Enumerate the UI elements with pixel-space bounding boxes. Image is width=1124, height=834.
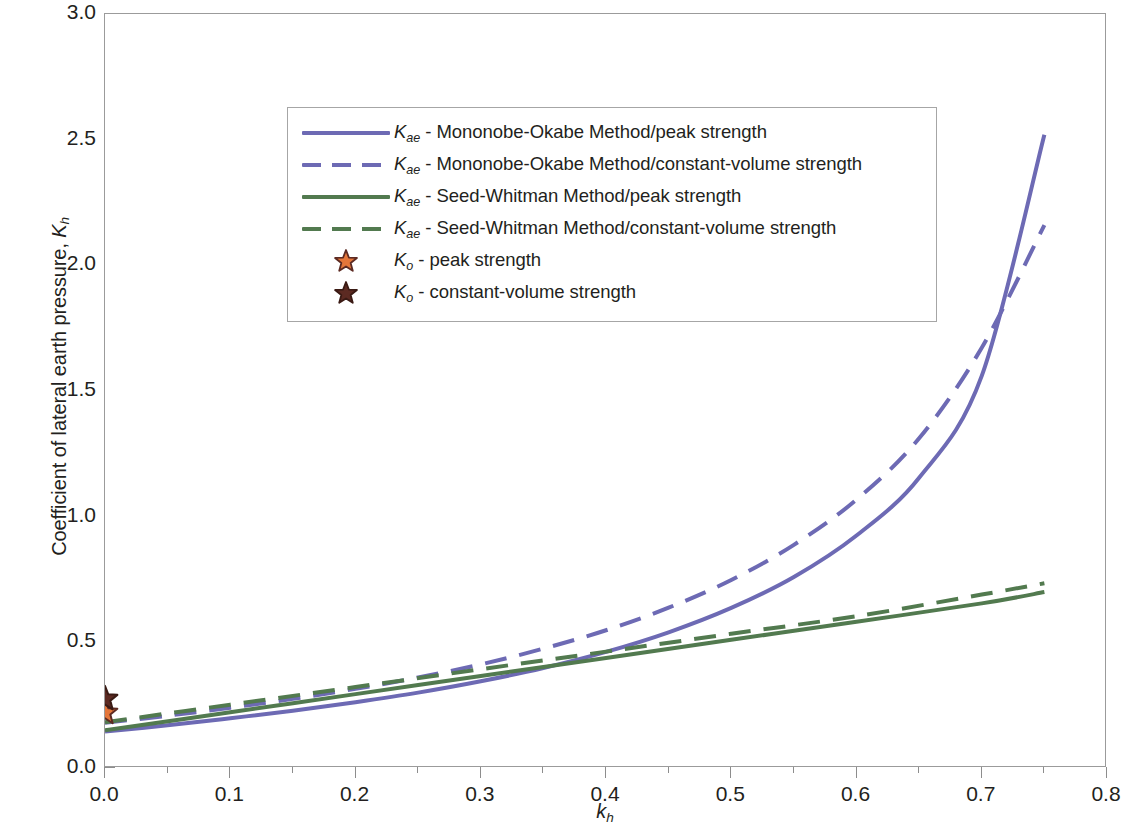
data-point-star — [105, 686, 117, 710]
legend-symbol: K — [394, 153, 406, 174]
y-tick-label: 0.0 — [67, 755, 96, 776]
legend-symbol-subscript: ae — [406, 227, 420, 241]
y-axis-label-subscript: h — [57, 217, 72, 224]
x-tick-label: 0.8 — [1066, 783, 1124, 804]
x-tick-label: 0.7 — [941, 783, 1021, 804]
x-tick-major — [730, 767, 731, 778]
legend-symbol: K — [394, 121, 406, 142]
legend-swatch-line-dashed-blue — [298, 155, 394, 175]
legend-item[interactable]: Kae - Seed-Whitman Method/constant-volum… — [288, 213, 936, 245]
legend-description: - Mononobe-Okabe Method/peak strength — [420, 121, 767, 142]
y-tick-label: 3.0 — [67, 1, 96, 22]
series-line — [105, 592, 1044, 730]
legend-item[interactable]: Kae - Seed-Whitman Method/peak strength — [288, 181, 936, 213]
legend-line-swatch — [302, 227, 390, 231]
y-tick-label: 1.0 — [67, 504, 96, 525]
legend-item-label: Kae - Mononobe-Okabe Method/constant-vol… — [394, 153, 862, 177]
y-axis-label-symbol: K — [48, 224, 70, 237]
x-tick-label: 0.6 — [816, 783, 896, 804]
x-tick-major — [1106, 767, 1107, 778]
x-tick-label: 0.3 — [440, 783, 520, 804]
legend-line-swatch — [302, 131, 390, 135]
legend-swatch-star-maroon — [298, 283, 394, 303]
x-tick-major — [104, 767, 105, 778]
x-tick-major — [229, 767, 230, 778]
x-tick-label: 0.1 — [189, 783, 269, 804]
legend-star-icon — [333, 280, 359, 306]
legend-item-label: Kae - Seed-Whitman Method/peak strength — [394, 185, 741, 209]
legend-item[interactable]: Kae - Mononobe-Okabe Method/peak strengt… — [288, 117, 936, 149]
legend-description: - Mononobe-Okabe Method/constant-volume … — [420, 153, 862, 174]
legend-description: - Seed-Whitman Method/peak strength — [420, 185, 741, 206]
plot-area: Kae - Mononobe-Okabe Method/peak strengt… — [104, 13, 1106, 767]
legend-symbol-subscript: ae — [406, 131, 420, 145]
y-tick-label: 2.0 — [67, 252, 96, 273]
x-tick-label: 0.0 — [64, 783, 144, 804]
x-tick-major — [355, 767, 356, 778]
legend-item-label: Kae - Seed-Whitman Method/constant-volum… — [394, 217, 836, 241]
legend-symbol-subscript: ae — [406, 195, 420, 209]
series-line — [105, 583, 1044, 722]
legend-swatch-line-solid-green — [298, 187, 394, 207]
legend-line-swatch — [302, 163, 390, 167]
legend-description: - Seed-Whitman Method/constant-volume st… — [420, 217, 836, 238]
legend-symbol: K — [394, 281, 406, 302]
y-tick-label: 0.5 — [67, 629, 96, 650]
x-tick-major — [480, 767, 481, 778]
legend-symbol-subscript: ae — [406, 163, 420, 177]
x-tick-major — [605, 767, 606, 778]
legend-swatch-line-solid-blue — [298, 123, 394, 143]
legend-description: - peak strength — [413, 249, 541, 270]
y-tick-label: 2.5 — [67, 127, 96, 148]
y-tick-label: 1.5 — [67, 378, 96, 399]
x-tick-label: 0.2 — [315, 783, 395, 804]
x-axis-label-subscript: h — [606, 810, 614, 825]
legend-item-label: Ko - peak strength — [394, 249, 541, 273]
legend-line-swatch — [302, 195, 390, 199]
legend-symbol: K — [394, 217, 406, 238]
x-tick-major — [856, 767, 857, 778]
chart-figure: Coefficient of lateral earth pressure, K… — [0, 0, 1124, 834]
legend-item[interactable]: Ko - constant-volume strength — [288, 277, 936, 309]
legend-swatch-star-orange — [298, 251, 394, 271]
chart-legend: Kae - Mononobe-Okabe Method/peak strengt… — [287, 107, 937, 322]
x-tick-label: 0.5 — [690, 783, 770, 804]
legend-symbol: K — [394, 185, 406, 206]
legend-star-icon — [333, 248, 359, 274]
legend-symbol: K — [394, 249, 406, 270]
legend-description: - constant-volume strength — [413, 281, 636, 302]
legend-item[interactable]: Ko - peak strength — [288, 245, 936, 277]
x-tick-label: 0.4 — [565, 783, 645, 804]
legend-item[interactable]: Kae - Mononobe-Okabe Method/constant-vol… — [288, 149, 936, 181]
legend-item-label: Ko - constant-volume strength — [394, 281, 636, 305]
legend-swatch-line-dashed-green — [298, 219, 394, 239]
legend-item-label: Kae - Mononobe-Okabe Method/peak strengt… — [394, 121, 767, 145]
x-tick-major — [981, 767, 982, 778]
